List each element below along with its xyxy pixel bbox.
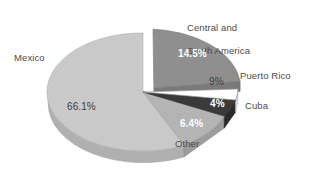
slice-label-puerto-rico: Puerto Rico [240, 70, 291, 82]
slice-label-central-south-america-line1: Central and [187, 22, 237, 33]
pie-chart-graphic [0, 0, 313, 183]
slice-value-cuba: 4% [210, 98, 225, 109]
pie-chart-figure: Central and South America Mexico Puerto … [0, 0, 313, 183]
slice-label-mexico: Mexico [14, 52, 45, 64]
slice-value-other: 6.4% [180, 118, 203, 129]
slice-value-mexico: 66.1% [67, 101, 96, 112]
slice-value-central-south-america: 14.5% [178, 48, 207, 59]
slice-value-puerto-rico: 9% [209, 76, 224, 87]
slice-label-cuba: Cuba [245, 100, 268, 112]
slice-label-other: Other [175, 138, 199, 150]
